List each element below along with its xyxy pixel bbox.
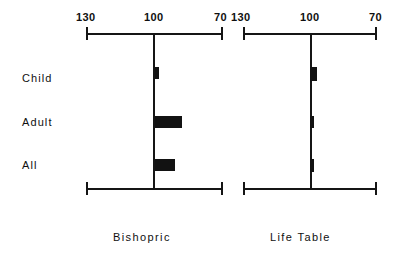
tick-label-right-top-bishopric: 70 (214, 11, 227, 23)
axis-cap-top-left-life-table (243, 27, 245, 40)
axis-cap-top-left-bishopric (86, 27, 88, 40)
bar-life-table-adult (310, 116, 314, 128)
bar-life-table-child (310, 67, 317, 81)
panel-title-life-table: Life Table (270, 231, 331, 243)
axis-cap-top-right-life-table (375, 27, 377, 40)
chart-figure: Child Adult All 130 100 70 Bishopric 130… (0, 0, 403, 267)
axis-cap-bottom-left-bishopric (86, 182, 88, 195)
axis-cap-bottom-left-life-table (243, 182, 245, 195)
bar-bishopric-all (155, 159, 176, 171)
tick-label-mid-top-life-table: 100 (300, 11, 320, 23)
tick-label-left-top-life-table: 130 (231, 11, 251, 23)
tick-label-mid-top-bishopric: 100 (144, 11, 164, 23)
tick-label-left-top-bishopric: 130 (76, 11, 96, 23)
tick-label-right-top-life-table: 70 (369, 11, 382, 23)
axis-cap-bottom-right-bishopric (221, 182, 223, 195)
bar-bishopric-adult (155, 116, 182, 128)
panel-life-table: 130 100 70 Life Table (230, 0, 403, 267)
bar-life-table-all (310, 159, 314, 172)
panel-title-bishopric: Bishopric (113, 231, 171, 243)
axis-cap-top-right-bishopric (221, 27, 223, 40)
axis-cap-bottom-right-life-table (375, 182, 377, 195)
panel-bishopric: 130 100 70 Bishopric (0, 0, 230, 267)
bar-bishopric-child (155, 67, 160, 79)
